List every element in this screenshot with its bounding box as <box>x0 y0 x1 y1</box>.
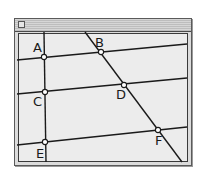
point-label-d: D <box>116 87 126 102</box>
point-e <box>42 139 47 144</box>
geometry-diagram: ABCDEF <box>0 0 198 174</box>
point-label-a: A <box>33 40 42 55</box>
point-label-e: E <box>36 146 44 161</box>
point-c <box>42 89 47 94</box>
point-b <box>98 49 103 54</box>
point-a <box>41 54 46 59</box>
point-label-b: B <box>95 35 104 50</box>
point-label-f: F <box>155 133 162 148</box>
point-f <box>155 127 160 132</box>
point-label-c: C <box>33 94 42 109</box>
